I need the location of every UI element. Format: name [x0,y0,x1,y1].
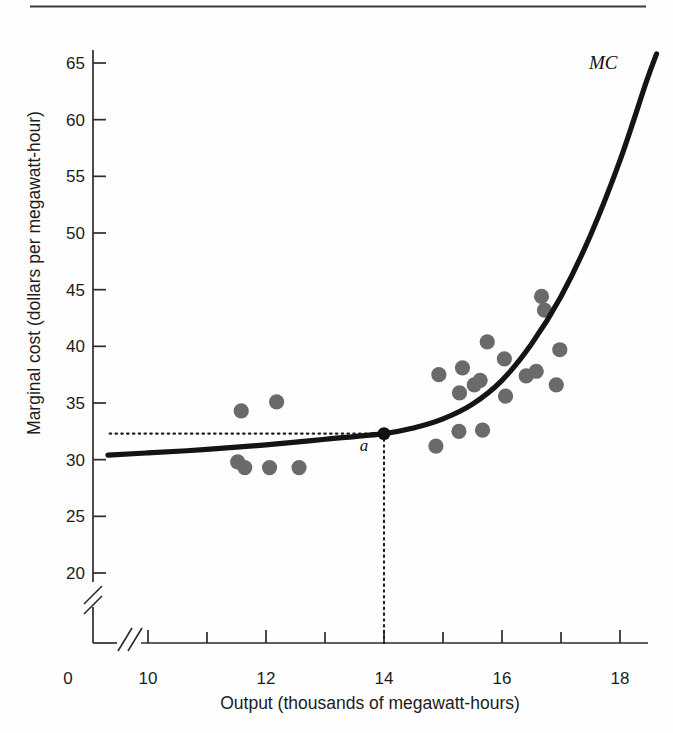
scatter-point [534,289,549,304]
x-axis-title: Output (thousands of megawatt-hours) [220,693,520,713]
scatter-point [455,360,470,375]
scatter-points [230,289,567,475]
scatter-point [291,460,306,475]
scatter-point [234,403,249,418]
scatter-point [549,377,564,392]
scatter-point [475,423,490,438]
scatter-point [269,394,284,409]
scatter-point [451,424,466,439]
scatter-point [452,385,467,400]
scatter-point [428,438,443,453]
marginal-cost-scatter-chart: 20253035404550556065 1012141618 0 a MC O… [0,0,673,733]
scatter-point [480,334,495,349]
y-tick-label-20: 20 [66,564,85,583]
tangency-annotation: a [360,427,391,454]
scatter-point [498,389,513,404]
x-tick-label-14: 14 [375,669,394,688]
x-tick-labels: 1012141618 [139,669,630,688]
y-tick-label-45: 45 [66,281,85,300]
y-tick-marks [93,63,106,573]
x-tick-label-18: 18 [611,669,630,688]
figure-container: 20253035404550556065 1012141618 0 a MC O… [0,0,673,733]
y-tick-label-30: 30 [66,451,85,470]
mc-curve-label: MC [588,52,618,73]
x-axis: 1012141618 0 [63,628,648,688]
x-axis-origin-label: 0 [63,669,72,688]
y-tick-label-40: 40 [66,337,85,356]
y-tick-label-60: 60 [66,111,85,130]
x-tick-label-10: 10 [139,669,158,688]
scatter-point [262,460,277,475]
y-tick-label-25: 25 [66,507,85,526]
y-axis: 20253035404550556065 [66,50,106,643]
tangency-point-label: a [360,436,369,455]
scatter-point [431,367,446,382]
scatter-point [529,364,544,379]
y-tick-label-55: 55 [66,167,85,186]
y-tick-label-50: 50 [66,224,85,243]
y-axis-title: Marginal cost (dollars per megawatt-hour… [24,111,44,435]
scatter-point [237,460,252,475]
scatter-point [473,373,488,388]
y-tick-label-35: 35 [66,394,85,413]
scatter-point [552,342,567,357]
y-axis-break-slash-1 [84,586,102,604]
x-tick-label-16: 16 [493,669,512,688]
y-tick-labels: 20253035404550556065 [66,54,85,583]
tangency-point-marker [378,427,391,440]
y-tick-label-65: 65 [66,54,85,73]
mc-curve-line [108,54,657,455]
x-tick-label-12: 12 [257,669,276,688]
scatter-point [497,351,512,366]
